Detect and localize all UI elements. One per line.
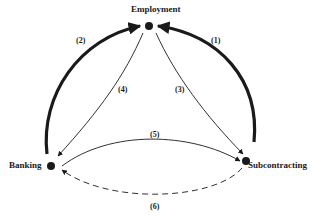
- edge-5-curve: [62, 139, 240, 166]
- node-employment-dot: [145, 22, 153, 30]
- node-banking-dot: [47, 162, 55, 170]
- edge-label-1: (1): [211, 36, 220, 45]
- flow-diagram: Employment Banking Subcontracting (1) (2…: [0, 0, 312, 218]
- edge-6-dashed-curve: [62, 168, 242, 194]
- node-label-employment: Employment: [131, 4, 181, 14]
- edge-label-3: (3): [175, 85, 184, 94]
- edge-4-line: [58, 33, 143, 156]
- edge-label-6: (6): [150, 202, 159, 211]
- edge-label-2: (2): [76, 36, 85, 45]
- diagram-canvas: [0, 0, 312, 218]
- node-label-subcontracting: Subcontracting: [248, 160, 307, 170]
- node-label-banking: Banking: [9, 160, 42, 170]
- edge-1-thick-arc: [158, 26, 255, 142]
- edge-label-5: (5): [150, 130, 159, 139]
- edge-3-line: [156, 33, 243, 154]
- edge-label-4: (4): [118, 85, 127, 94]
